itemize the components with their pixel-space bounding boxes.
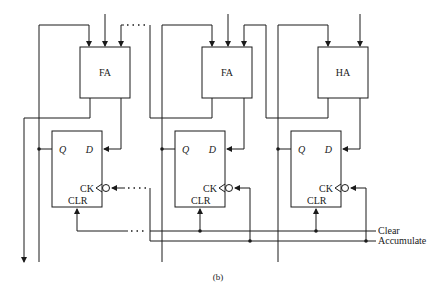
figure-caption: (b): [213, 272, 224, 282]
ff3-ck-label: CK: [319, 183, 334, 194]
ff1-ck-label: CK: [80, 183, 95, 194]
junction-dot: [160, 147, 164, 151]
ff1-q-label: Q: [59, 144, 67, 155]
junction-dot: [276, 147, 280, 151]
ff1-clock-bubble-icon: [103, 185, 110, 192]
ff3-clr-label: CLR: [307, 195, 327, 206]
ff3-q-label: Q: [298, 144, 306, 155]
ff2-ck-label: CK: [203, 183, 218, 194]
fa1-carry-arrow: [118, 41, 124, 47]
ha-sum-wire: [343, 98, 360, 149]
stage-2: FA Q D CK CLR: [150, 14, 266, 262]
full-adder-1-label: FA: [99, 67, 112, 78]
accumulate-signal-label: Accumulate: [378, 235, 427, 246]
stage-1: FA Q D CK CLR: [24, 14, 150, 262]
junction-dot: [37, 147, 41, 151]
ff2-clr-label: CLR: [191, 195, 211, 206]
ff1-clr-wire: [77, 209, 128, 231]
ff3-d-label: D: [324, 144, 333, 155]
fa1-sum-wire: [104, 98, 121, 149]
ff2-d-label: D: [208, 144, 217, 155]
full-adder-2-label: FA: [221, 67, 234, 78]
fa2-sum-wire: [227, 98, 244, 149]
ff2-ck-wire: [235, 188, 250, 241]
ff3-clock-bubble-icon: [342, 185, 349, 192]
half-adder-label: HA: [336, 67, 351, 78]
stage-3: HA Q D CK CLR: [266, 14, 368, 262]
ha-carry-out-wire: [266, 98, 328, 118]
ff2-q-label: Q: [182, 144, 190, 155]
ff1-clr-label: CLR: [68, 195, 88, 206]
ff1-d-label: D: [85, 144, 94, 155]
ff2-clock-bubble-icon: [226, 185, 233, 192]
fa2-carry-out-wire: [150, 98, 212, 118]
ff3-ck-wire: [351, 188, 366, 241]
accumulator-circuit-diagram: FA Q D CK CLR FA Q D CK: [0, 0, 445, 297]
